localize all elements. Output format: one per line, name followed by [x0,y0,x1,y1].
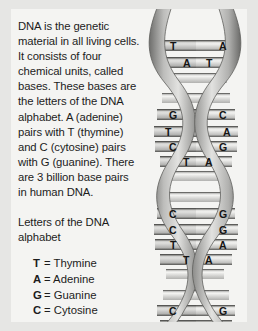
helix-svg: T A A T G C T A C G T A C G C G T A T A [143,9,247,322]
base-label-left-4: T [165,126,172,138]
base-label-right-11: G [219,305,227,317]
base-label-left-6: T [183,156,190,168]
legend-letter-t: T [33,256,44,272]
base-label-left-8: C [169,224,177,236]
legend-text-cytosine: = Cytosine [44,304,98,316]
base-label-left-12: T [170,320,177,322]
base-label-right-3: C [219,109,227,121]
base-label-right-4: A [223,126,231,138]
legend-item-thymine: T= Thymine [18,256,140,272]
legend-letter-g: G [33,288,44,304]
dna-letter-legend: T= Thymine A= Adenine G= Guanine C= Cyto… [18,256,140,318]
legend-letter-c: C [33,303,44,319]
intro-paragraph: DNA is the genetic material in all livin… [18,19,140,200]
legend-text-thymine: = Thymine [44,257,97,269]
base-label-right-5: G [219,141,227,153]
base-label-left-7: C [169,208,177,220]
legend-text-adenine: = Adenine [44,273,95,285]
base-label-left-5: C [169,141,177,153]
base-label-right-10: A [205,254,213,266]
base-label-right-6: A [205,156,213,168]
base-label-right-8: G [219,224,227,236]
base-label-left-10: T [183,254,190,266]
base-label-left-9: T [170,239,177,251]
base-label-right-7: G [219,208,227,220]
base-label-right-12: A [219,320,227,322]
legend-letter-a: A [33,272,44,288]
legend-item-adenine: A= Adenine [18,272,140,288]
base-label-right-9: A [219,239,227,251]
base-label-right-2: T [206,57,213,69]
legend-item-guanine: G= Guanine [18,288,140,304]
base-label-left-1: T [170,40,177,52]
legend-text-guanine: = Guanine [44,289,96,301]
legend-heading: Letters of the DNA alphabet [18,215,140,245]
base-label-left-11: C [169,305,177,317]
legend-item-cytosine: C= Cytosine [18,303,140,319]
text-column: DNA is the genetic material in all livin… [18,19,140,319]
dna-double-helix-illustration: T A A T G C T A C G T A C G C G T A T A [143,9,247,322]
base-label-left-3: G [169,109,177,121]
base-label-right-1: A [219,40,227,52]
base-label-left-2: A [183,57,191,69]
dna-infographic: DNA is the genetic material in all livin… [0,0,258,331]
